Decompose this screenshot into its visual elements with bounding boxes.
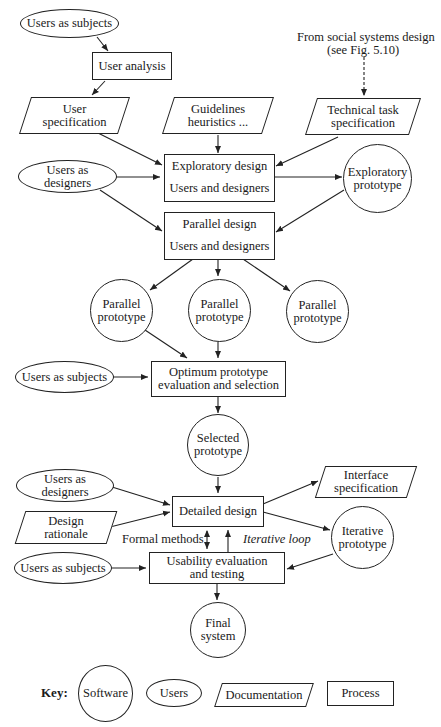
node-label: Users as subjects: [20, 562, 105, 575]
iterative-prototype-software: Iterative prototype: [331, 506, 394, 569]
node-subtitle: Users and designers: [170, 240, 270, 253]
selected-prototype-software: Selected prototype: [187, 414, 249, 476]
node-label-line2: prototype: [196, 311, 244, 324]
node-label-line2: prototype: [294, 312, 342, 325]
users-as-designers-ellipse-2: Users as designers: [16, 469, 114, 502]
node-label: Users as subjects: [22, 371, 107, 384]
key-software-label: Software: [83, 687, 128, 700]
node-label-line2: prototype: [339, 538, 387, 551]
node-label-line2: designers: [41, 486, 88, 499]
node-label: Users as subjects: [27, 17, 112, 30]
node-label-line1: Guidelines: [191, 103, 245, 116]
node-label-line2: and testing: [190, 568, 245, 581]
technical-task-spec-doc: Technical task specification: [311, 98, 415, 135]
node-label-line2: specification: [331, 117, 395, 130]
node-label-line1: Parallel: [200, 298, 238, 311]
final-system-software: Final system: [190, 602, 246, 658]
users-as-subjects-ellipse-3: Users as subjects: [14, 552, 112, 584]
node-label-line2: designers: [44, 177, 91, 190]
parallel-design-process: Parallel design Users and designers: [164, 212, 275, 260]
parallel-prototype-1: Parallel prototype: [90, 279, 153, 342]
node-label-line1: Users as: [44, 473, 86, 486]
users-as-designers-ellipse-1: Users as designers: [18, 160, 117, 193]
node-label-line2: system: [201, 630, 236, 643]
users-as-subjects-ellipse-1: Users as subjects: [20, 9, 119, 38]
key-documentation-para: Documentation: [218, 683, 310, 707]
node-label-line1: User: [63, 103, 87, 116]
users-as-subjects-ellipse-2: Users as subjects: [15, 361, 114, 393]
key-process-label: Process: [341, 687, 379, 700]
exploratory-prototype-software: Exploratory prototype: [343, 144, 412, 213]
node-label-line2: specification: [334, 482, 398, 495]
node-label-line2: rationale: [44, 528, 88, 541]
parallel-prototype-3: Parallel prototype: [286, 280, 349, 343]
parallel-prototype-2: Parallel prototype: [188, 279, 251, 342]
node-label-line2: prototype: [354, 179, 402, 192]
node-label-line2: prototype: [194, 445, 242, 458]
usability-evaluation-process: Usability evaluation and testing: [149, 552, 285, 584]
node-label: Detailed design: [179, 505, 257, 518]
node-label-line1: Iterative: [342, 525, 384, 538]
design-rationale-doc: Design rationale: [20, 511, 112, 544]
user-specification-doc: User specification: [25, 97, 124, 134]
iterative-loop-label: Iterative loop: [243, 533, 311, 546]
guidelines-heuristics-doc: Guidelines heuristics ...: [168, 97, 268, 134]
node-label-line2: specification: [43, 116, 107, 129]
user-analysis-process: User analysis: [92, 52, 172, 80]
key-users-ellipse: Users: [146, 679, 202, 707]
node-label-line2: evaluation and selection: [158, 379, 279, 392]
optimum-prototype-evaluation-process: Optimum prototype evaluation and selecti…: [151, 361, 286, 397]
formal-methods-label: Formal methods: [122, 533, 204, 546]
node-label: User analysis: [99, 60, 166, 73]
exploratory-design-process: Exploratory design Users and designers: [164, 154, 275, 202]
node-label-line2: prototype: [98, 311, 146, 324]
key-users-label: Users: [160, 687, 188, 700]
key-software-circle: Software: [78, 665, 133, 722]
detailed-design-process: Detailed design: [172, 496, 264, 527]
diagram-canvas: From social systems design (see Fig. 5.1…: [0, 0, 441, 727]
node-label-line1: Design: [48, 515, 83, 528]
node-label-line1: Parallel: [298, 299, 336, 312]
node-label-line1: Technical task: [327, 104, 399, 117]
node-label-line2: heuristics ...: [188, 116, 248, 129]
node-title: Parallel design: [183, 218, 257, 231]
node-title: Exploratory design: [172, 160, 267, 173]
node-label-line1: Users as: [46, 164, 88, 177]
node-label-line1: Exploratory: [348, 166, 408, 179]
key-documentation-label: Documentation: [225, 689, 302, 702]
key-title: Key:: [41, 685, 68, 701]
node-subtitle: Users and designers: [170, 182, 270, 195]
external-source-line2: (see Fig. 5.10): [327, 44, 399, 57]
node-label-line1: Parallel: [102, 298, 140, 311]
key-process-rect: Process: [327, 681, 394, 706]
interface-specification-doc: Interface specification: [320, 466, 412, 498]
